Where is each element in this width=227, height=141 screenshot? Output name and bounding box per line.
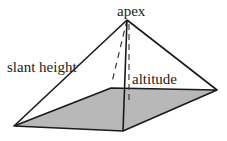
slant-height-label: slant height bbox=[7, 60, 77, 75]
altitude-label: altitude bbox=[132, 72, 177, 87]
apex-label: apex bbox=[117, 4, 145, 19]
pyramid-base bbox=[14, 88, 217, 131]
